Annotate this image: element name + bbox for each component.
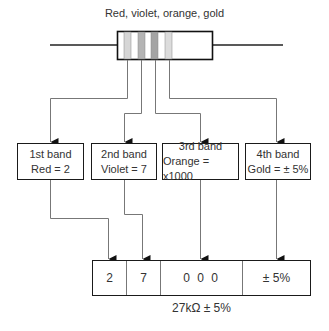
band-box-heading: 4th band bbox=[257, 147, 300, 162]
connector-band4 bbox=[170, 60, 277, 142]
result-cell-multiplier: 0 0 0 bbox=[160, 261, 242, 295]
band-box-2: 2nd band Violet = 7 bbox=[91, 143, 157, 180]
band-box-heading: 1st band bbox=[29, 147, 71, 162]
band-box-3: 3rd band Orange = x1000 bbox=[162, 143, 239, 180]
connector-band3 bbox=[156, 60, 201, 142]
band-box-heading: 3rd band bbox=[179, 139, 222, 154]
result-box: 2 7 0 0 0 ± 5% bbox=[92, 260, 311, 296]
band-box-value: Gold = ± 5% bbox=[248, 162, 309, 177]
connector-band1 bbox=[51, 60, 128, 142]
band-box-value: Orange = x1000 bbox=[163, 154, 238, 184]
band-box-value: Violet = 7 bbox=[101, 162, 147, 177]
result-cell-digit1: 2 bbox=[93, 261, 126, 295]
band-box-value: Red = 2 bbox=[31, 162, 70, 177]
band-box-1: 1st band Red = 2 bbox=[17, 143, 84, 180]
result-cell-digit2: 7 bbox=[126, 261, 160, 295]
band-box-heading: 2nd band bbox=[101, 147, 147, 162]
band-2-violet bbox=[138, 32, 145, 59]
result-cell-tolerance: ± 5% bbox=[242, 261, 310, 295]
connector-box2-result bbox=[125, 180, 143, 259]
result-caption: 27kΩ ± 5% bbox=[0, 301, 329, 315]
band-3-orange bbox=[151, 32, 158, 59]
band-1-red bbox=[124, 32, 131, 59]
band-4-gold bbox=[165, 32, 172, 59]
band-box-4: 4th band Gold = ± 5% bbox=[245, 143, 311, 180]
connector-box1-result bbox=[51, 180, 109, 259]
